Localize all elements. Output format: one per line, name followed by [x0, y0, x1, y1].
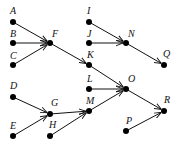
node-label-d: D: [9, 80, 18, 91]
node-label-m: M: [85, 95, 95, 106]
node-label-n: N: [127, 28, 136, 39]
directed-graph-diagram: ABCFDEGHIJKNQLMORP: [0, 0, 183, 147]
node-e: [10, 133, 16, 139]
node-label-j: J: [87, 28, 92, 39]
edge-f-to-k: [50, 43, 86, 64]
node-label-r: R: [163, 94, 170, 105]
node-d: [10, 94, 16, 100]
edge-k-to-o: [89, 65, 123, 87]
edge-n-to-q: [126, 43, 161, 63]
node-label-a: A: [9, 5, 17, 16]
node-p: [123, 128, 129, 134]
node-o: [123, 86, 129, 92]
node-label-b: B: [10, 28, 16, 39]
node-c: [10, 62, 16, 68]
node-b: [10, 40, 16, 46]
node-label-g: G: [51, 97, 58, 108]
node-m: [86, 108, 92, 114]
node-label-k: K: [86, 49, 95, 60]
edge-c-to-f: [13, 45, 47, 65]
node-f: [47, 40, 53, 46]
node-j: [86, 40, 92, 46]
edge-g-to-m: [50, 111, 86, 114]
node-label-p: P: [125, 115, 132, 126]
node-g: [47, 111, 53, 117]
edge-i-to-n: [89, 22, 123, 42]
edge-e-to-g: [13, 116, 47, 136]
node-n: [123, 40, 129, 46]
node-h: [47, 133, 53, 139]
node-k: [86, 62, 92, 68]
node-label-e: E: [9, 120, 16, 131]
edge-d-to-g: [13, 97, 47, 113]
node-l: [86, 86, 92, 92]
node-i: [86, 19, 92, 25]
node-q: [161, 62, 167, 68]
node-label-c: C: [10, 50, 17, 61]
node-r: [161, 108, 167, 114]
node-label-l: L: [86, 73, 93, 84]
node-a: [10, 19, 16, 25]
edge-o-to-r: [126, 89, 161, 109]
edge-a-to-f: [13, 22, 47, 42]
node-label-i: I: [86, 5, 91, 16]
node-label-h: H: [48, 119, 57, 130]
node-label-o: O: [128, 73, 135, 84]
node-label-f: F: [51, 28, 59, 39]
node-label-q: Q: [163, 48, 171, 59]
